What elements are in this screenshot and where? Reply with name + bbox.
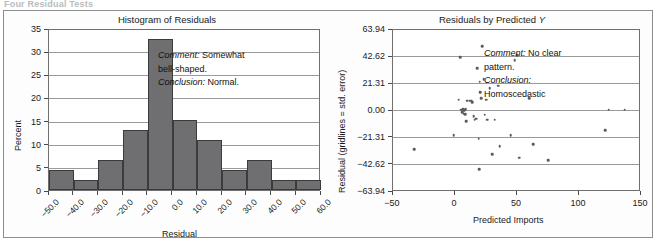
- histogram-y-tick: [44, 75, 48, 76]
- histogram-y-tick: [44, 98, 48, 99]
- histogram-bar: [173, 120, 198, 190]
- scatter-x-tick: [392, 191, 393, 195]
- scatter-x-tick: [640, 191, 641, 195]
- histogram-y-tick-label: 10: [4, 140, 41, 150]
- scatter-gridline: [393, 137, 639, 138]
- histogram-y-tick-label: 25: [4, 70, 41, 80]
- scatter-y-tick-label: 63.94: [330, 24, 385, 34]
- histogram-x-tick-label: 10.0: [181, 197, 209, 225]
- scatter-point: [518, 157, 521, 160]
- histogram-x-tick-label: −50.0: [33, 197, 61, 225]
- scatter-y-tick: [388, 163, 392, 164]
- histogram-x-tick: [270, 191, 271, 195]
- histogram-bar: [74, 180, 99, 190]
- scatter-point: [457, 98, 460, 101]
- histogram-conclusion-text: Normal.: [208, 77, 240, 87]
- scatter-y-tick-label: 0.00: [330, 105, 385, 115]
- scatter-point: [476, 67, 479, 70]
- histogram-title: Histogram of Residuals: [4, 14, 330, 25]
- histogram-x-tick: [221, 191, 222, 195]
- scatter-y-tick: [388, 29, 392, 30]
- scatter-y-tick: [388, 110, 392, 111]
- histogram-bar: [49, 170, 74, 190]
- histogram-x-tick: [196, 191, 197, 195]
- histogram-y-tick: [44, 52, 48, 53]
- scatter-point: [464, 108, 467, 111]
- scatter-point: [477, 138, 480, 141]
- histogram-conclusion-label: Conclusion:: [158, 77, 205, 87]
- histogram-x-tick: [48, 191, 49, 195]
- histogram-x-tick-label: 20.0: [206, 197, 234, 225]
- scatter-y-tick-label: −21.31: [330, 132, 385, 142]
- scatter-comment-label: Comment:: [484, 48, 526, 58]
- histogram-y-tick-label: 5: [4, 163, 41, 173]
- histogram-y-tick-label: 20: [4, 93, 41, 103]
- scatter-point: [483, 114, 486, 117]
- scatter-point: [604, 129, 607, 132]
- scatter-title-variable: Y: [539, 14, 545, 25]
- scatter-x-tick-label: 0: [451, 198, 456, 208]
- scatter-x-tick: [578, 191, 579, 195]
- scatter-annotation: Comment: No clearpattern.Conclusion:Homo…: [484, 47, 562, 101]
- scatter-panel: Residuals by Predicted Y Residual (gridl…: [330, 11, 654, 237]
- histogram-bar: [197, 140, 222, 190]
- scatter-point: [510, 134, 513, 137]
- histogram-comment-label: Comment:: [158, 50, 200, 60]
- scatter-y-tick: [388, 136, 392, 137]
- scatter-point: [465, 120, 468, 123]
- histogram-y-tick: [44, 144, 48, 145]
- histogram-y-tick: [44, 121, 48, 122]
- histogram-panel: Histogram of Residuals Percent 051015202…: [4, 11, 330, 237]
- histogram-x-tick: [72, 191, 73, 195]
- scatter-point: [532, 143, 535, 146]
- scatter-y-tick: [388, 56, 392, 57]
- scatter-point: [479, 81, 482, 84]
- histogram-x-tick: [295, 191, 296, 195]
- scatter-point: [413, 148, 416, 151]
- section-heading: Four Residual Tests: [4, 0, 93, 9]
- scatter-y-tick-label: 42.62: [330, 51, 385, 61]
- histogram-bar: [296, 180, 321, 190]
- histogram-annotation: Comment: Somewhatbell-shaped.Conclusion:…: [158, 49, 245, 90]
- scatter-point: [607, 108, 610, 111]
- scatter-point: [478, 168, 481, 171]
- scatter-point: [479, 91, 482, 94]
- scatter-y-tick-label: −42.62: [330, 159, 385, 169]
- scatter-point: [493, 119, 496, 122]
- histogram-y-tick: [44, 167, 48, 168]
- histogram-y-tick-label: 15: [4, 117, 41, 127]
- scatter-title-prefix: Residuals by Predicted: [439, 14, 539, 25]
- histogram-bar: [222, 170, 247, 190]
- scatter-conclusion-label: Conclusion:: [484, 75, 531, 85]
- scatter-point: [624, 108, 627, 111]
- histogram-y-tick: [44, 29, 48, 30]
- scatter-point: [464, 113, 467, 116]
- histogram-x-tick-label: −30.0: [82, 197, 110, 225]
- scatter-x-tick-label: 50: [511, 198, 521, 208]
- scatter-point: [486, 119, 489, 122]
- histogram-x-tick-label: 60.0: [305, 197, 333, 225]
- histogram-bar: [98, 160, 123, 190]
- scatter-gridline: [393, 164, 639, 165]
- scatter-gridline: [393, 110, 639, 111]
- scatter-x-tick-label: 150: [632, 198, 647, 208]
- scatter-x-tick: [454, 191, 455, 195]
- histogram-x-tick-label: −10.0: [132, 197, 160, 225]
- histogram-x-tick-label: 50.0: [280, 197, 308, 225]
- histogram-bar: [272, 180, 297, 190]
- scatter-point: [547, 159, 550, 162]
- histogram-x-tick: [245, 191, 246, 195]
- scatter-y-tick: [388, 83, 392, 84]
- scatter-point: [471, 101, 474, 104]
- scatter-y-tick-label: −63.94: [330, 186, 385, 196]
- histogram-x-tick-label: 30.0: [231, 197, 259, 225]
- scatter-point: [452, 134, 455, 137]
- histogram-y-tick-label: 30: [4, 47, 41, 57]
- scatter-x-tick-label: −50: [384, 198, 399, 208]
- scatter-conclusion-text: Homoscedastic: [484, 89, 546, 99]
- histogram-x-tick: [146, 191, 147, 195]
- histogram-x-tick: [97, 191, 98, 195]
- scatter-x-tick-label: 100: [570, 198, 585, 208]
- scatter-point: [459, 56, 462, 59]
- histogram-gridline: [49, 98, 319, 99]
